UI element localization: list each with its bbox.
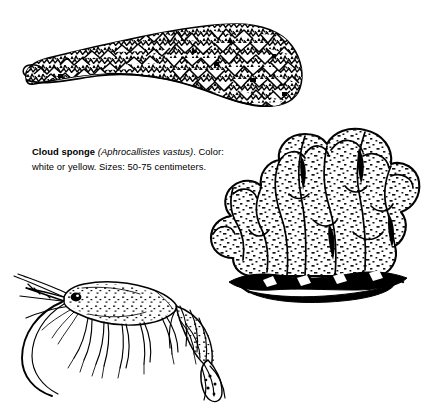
color-value: white or yellow. xyxy=(32,161,96,172)
shrimp-eye xyxy=(71,293,82,302)
crusty-sponge-figure xyxy=(14,10,314,120)
shrimp-icon xyxy=(4,268,236,406)
illustration-page: Cloud sponge (Aphrocallistes vastus). Co… xyxy=(0,0,434,409)
species-scientific-name: (Aphrocallistes vastus) xyxy=(98,146,193,157)
size-label: Sizes: xyxy=(99,161,125,172)
species-common-name: Cloud sponge xyxy=(32,146,95,157)
crusty-sponge-icon xyxy=(14,10,314,120)
shrimp-figure xyxy=(4,268,236,406)
